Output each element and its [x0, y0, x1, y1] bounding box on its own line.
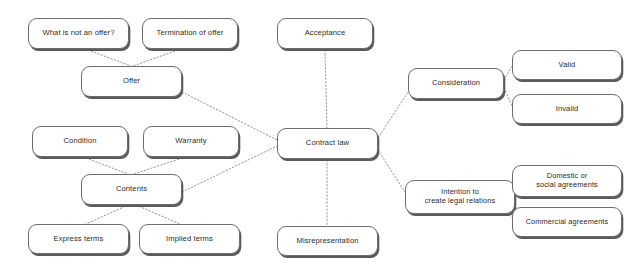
edge-warranty-to-contents [134, 158, 182, 174]
edge-what_is_not_an_offer-to-offer [88, 50, 131, 66]
node-intention[interactable]: Intention to create legal relations [405, 180, 515, 214]
node-commercial_agreements[interactable]: Commercial agreements [512, 207, 622, 237]
mind-map-canvas: What is not an offer?Termination of offe… [0, 0, 640, 266]
node-label-warranty: Warranty [171, 137, 210, 146]
node-label-implied_terms: Implied terms [162, 235, 217, 244]
node-contract_law[interactable]: Contract law [277, 128, 378, 159]
edge-acceptance-to-contract_law [325, 50, 327, 128]
node-label-commercial_agreements: Commercial agreements [522, 218, 613, 227]
edge-contract_law-to-intention [378, 150, 405, 192]
edge-consideration-to-valid [504, 66, 512, 80]
node-label-contract_law: Contract law [302, 139, 353, 148]
node-label-misrepresentation: Misrepresentation [292, 237, 362, 246]
node-label-offer: Offer [119, 77, 144, 86]
node-misrepresentation[interactable]: Misrepresentation [277, 226, 378, 256]
node-contents[interactable]: Contents [81, 174, 182, 205]
node-acceptance[interactable]: Acceptance [277, 18, 373, 49]
node-label-consideration: Consideration [428, 79, 484, 88]
node-label-domestic_or_social: Domestic or social agreements [532, 172, 602, 189]
node-express_terms[interactable]: Express terms [28, 224, 129, 254]
node-termination_of_offer[interactable]: Termination of offer [142, 18, 238, 49]
node-consideration[interactable]: Consideration [408, 68, 504, 99]
node-condition[interactable]: Condition [32, 126, 128, 157]
node-label-condition: Condition [60, 137, 101, 146]
node-offer[interactable]: Offer [81, 66, 182, 97]
node-domestic_or_social[interactable]: Domestic or social agreements [512, 165, 622, 197]
edge-contents-to-implied_terms [136, 205, 180, 224]
node-valid[interactable]: Valid [512, 50, 622, 80]
edge-condition-to-contents [86, 158, 128, 174]
node-label-valid: Valid [555, 61, 580, 70]
edge-termination_of_offer-to-offer [133, 50, 178, 66]
node-label-acceptance: Acceptance [301, 29, 350, 38]
node-label-express_terms: Express terms [50, 235, 108, 244]
node-label-intention: Intention to create legal relations [421, 188, 499, 205]
node-what_is_not_an_offer[interactable]: What is not an offer? [28, 18, 129, 49]
node-implied_terms[interactable]: Implied terms [139, 224, 240, 254]
edge-consideration-to-invalid [504, 88, 512, 106]
node-invalid[interactable]: Invalid [512, 94, 622, 124]
edge-contract_law-to-consideration [378, 92, 408, 138]
node-label-termination_of_offer: Termination of offer [153, 29, 228, 38]
node-label-contents: Contents [112, 185, 151, 194]
node-label-what_is_not_an_offer: What is not an offer? [38, 29, 118, 38]
node-label-invalid: Invalid [552, 105, 583, 114]
node-warranty[interactable]: Warranty [143, 126, 239, 157]
edge-contents-to-express_terms [86, 205, 128, 224]
